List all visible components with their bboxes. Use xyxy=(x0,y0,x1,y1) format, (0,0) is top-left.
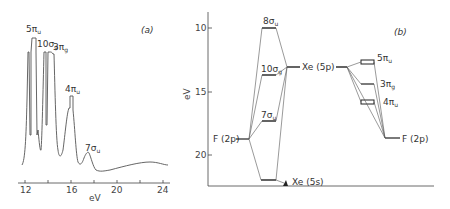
label-4pi-u: 4πu xyxy=(383,97,398,108)
y-tick-10: 10 xyxy=(195,23,207,33)
label-3pi-g: 3πg xyxy=(380,79,395,91)
label-7sigma-u: 7σu xyxy=(261,110,276,121)
xe5s-label: Xe (5s) xyxy=(292,177,324,187)
panel-a-tag: (a) xyxy=(141,25,154,35)
xe5p-label: Xe (5p) xyxy=(302,62,335,72)
label-8sigma-u: 8σu xyxy=(263,16,278,27)
x-axis-label: eV xyxy=(89,193,102,203)
y-tick-15: 15 xyxy=(195,87,206,97)
panel-b-tag: (b) xyxy=(394,27,407,37)
peak-label-5pi-u: 5πu xyxy=(26,24,41,35)
figure: 12 16 20 24 eV 5πu 10σg 3πg 4πu 7σu (a) … xyxy=(0,0,450,209)
panel-a-spectrum: 12 16 20 24 eV 5πu 10σg 3πg 4πu 7σu (a) xyxy=(18,24,170,203)
panel-b-energy-diagram: 10 15 20 eV F (2p) 8σu 10σg 7σu Xe (5p) … xyxy=(182,12,434,187)
y-ticks xyxy=(208,28,212,155)
x-ticks xyxy=(25,180,163,183)
peak-label-4pi-u: 4πu xyxy=(65,84,80,95)
x-tick-20: 20 xyxy=(111,185,123,195)
y-axis-label: eV xyxy=(182,87,192,100)
correlation-lines-left xyxy=(249,28,287,183)
peak-label-3pi-g: 3πg xyxy=(53,42,68,54)
level-5pi-u xyxy=(361,60,374,64)
label-5pi-u: 5πu xyxy=(377,53,392,64)
right-f2p-label: F (2p) xyxy=(402,134,429,144)
x-tick-12: 12 xyxy=(20,185,31,195)
peak-label-7sigma-u: 7σu xyxy=(85,143,100,154)
level-4pi-u xyxy=(361,100,374,104)
x-tick-16: 16 xyxy=(66,185,78,195)
x-tick-24: 24 xyxy=(157,185,169,195)
left-f2p-label: F (2p) xyxy=(213,134,240,144)
y-tick-20: 20 xyxy=(195,150,207,160)
label-10sigma-g: 10σg xyxy=(261,64,282,76)
